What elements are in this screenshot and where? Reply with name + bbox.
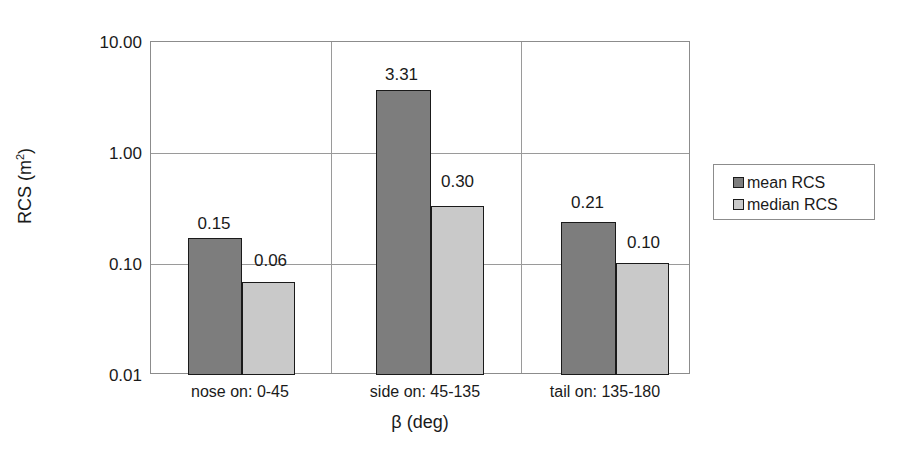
bar-median-side — [431, 206, 484, 375]
gridline-vertical — [521, 42, 522, 373]
bar-value-label: 3.31 — [360, 66, 443, 83]
chart-legend: mean RCSmedian RCS — [713, 164, 875, 220]
x-axis-title: β (deg) — [150, 412, 690, 432]
x-axis-category-label: nose on: 0-45 — [150, 383, 330, 401]
bar-mean-side — [376, 90, 431, 375]
legend-item: mean RCS — [733, 172, 874, 193]
legend-swatch-icon — [733, 177, 744, 188]
y-axis-title-base: RCS (m — [15, 160, 35, 224]
rcs-bar-chart: RCS (m2) 10.001.000.100.01 0.150.063.310… — [0, 0, 910, 457]
legend-label: mean RCS — [747, 175, 825, 191]
bar-median-tail — [616, 263, 669, 375]
x-axis-category-label: side on: 45-135 — [330, 383, 520, 401]
legend-swatch-icon — [733, 199, 744, 210]
y-axis-tick-label: 0.10 — [54, 256, 142, 273]
legend-label: median RCS — [747, 197, 838, 213]
y-axis-tick-labels: 10.001.000.100.01 — [52, 0, 142, 457]
bar-value-label: 0.21 — [546, 194, 629, 211]
y-axis-tick-label: 1.00 — [54, 145, 142, 162]
gridline-vertical — [331, 42, 332, 373]
bar-value-label: 0.30 — [417, 173, 498, 190]
y-axis-title: RCS (m2) — [14, 106, 36, 266]
y-axis-tick-label: 10.00 — [54, 34, 142, 51]
legend-item: median RCS — [733, 194, 874, 215]
y-axis-title-tail: ) — [15, 148, 35, 154]
x-axis-category-label: tail on: 135-180 — [520, 383, 690, 401]
bar-value-label: 0.15 — [173, 215, 255, 232]
bar-value-label: 0.10 — [603, 234, 684, 251]
y-axis-title-superscript: 2 — [14, 154, 26, 160]
bar-value-label: 0.06 — [230, 252, 311, 269]
bar-median-nose — [242, 282, 295, 375]
y-axis-tick-label: 0.01 — [54, 367, 142, 384]
